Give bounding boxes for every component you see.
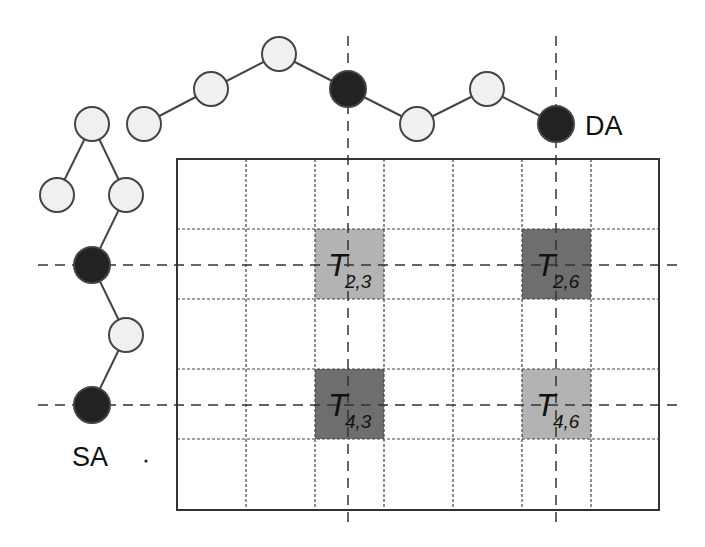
node-light — [109, 178, 143, 212]
node-light — [194, 72, 228, 106]
svg-text:2,6: 2,6 — [552, 271, 580, 292]
destination-label: DA — [585, 111, 623, 141]
grid-border — [177, 159, 659, 510]
diagram-canvas: SA DA T 2,3 T 2,6 T 4,3 T 4,6 — [0, 0, 705, 547]
node-light — [400, 107, 434, 141]
svg-text:2,3: 2,3 — [344, 271, 372, 292]
node-light — [109, 318, 143, 352]
tree-edges — [57, 54, 556, 405]
node-light — [470, 72, 504, 106]
dot-mark — [144, 459, 147, 462]
node-destination — [538, 106, 574, 142]
source-label: SA — [72, 442, 108, 472]
svg-text:4,3: 4,3 — [345, 411, 372, 432]
node-light — [75, 107, 109, 141]
grid-lines — [177, 159, 659, 510]
node-light — [262, 37, 296, 71]
node-dark — [74, 247, 110, 283]
node-dark — [330, 71, 366, 107]
node-light — [40, 178, 74, 212]
node-source — [74, 387, 110, 423]
node-light — [127, 107, 161, 141]
svg-text:4,6: 4,6 — [553, 411, 580, 432]
